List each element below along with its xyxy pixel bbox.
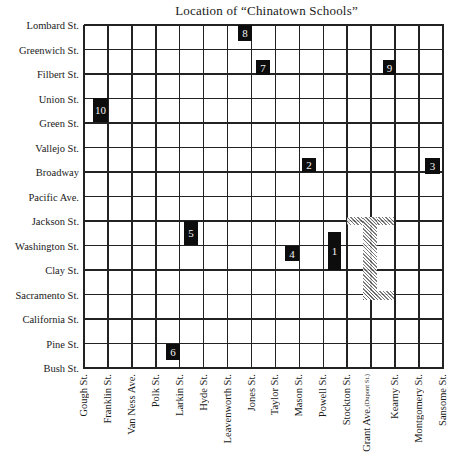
- street-name: Mason St.: [293, 374, 304, 417]
- street-line-horizontal: [84, 122, 444, 124]
- street-line-vertical: [346, 25, 348, 369]
- street-line-horizontal: [84, 318, 444, 320]
- street-name: Kearny St.: [389, 374, 400, 419]
- street-line-vertical: [227, 25, 229, 369]
- school-marker-5: 5: [184, 221, 198, 245]
- street-line-vertical: [370, 25, 372, 369]
- street-label-vertical: Kearny St.: [389, 374, 401, 419]
- street-label-horizontal: Washington St.: [15, 240, 79, 251]
- street-name: Stockton St.: [341, 374, 352, 425]
- school-marker-1: 1: [328, 232, 341, 270]
- street-line-horizontal: [84, 147, 444, 149]
- street-line-vertical: [203, 25, 205, 369]
- school-marker-3: 3: [425, 158, 440, 174]
- street-name: Montgomery St.: [413, 374, 424, 443]
- street-name: Jones St.: [246, 374, 257, 411]
- street-line-horizontal: [84, 269, 444, 271]
- street-label-horizontal: Lombard St.: [27, 20, 80, 31]
- street-label-vertical: Van Ness Ave.: [126, 374, 138, 435]
- chinatown-area-hatch: [363, 291, 394, 300]
- street-line-horizontal: [84, 98, 444, 100]
- street-name: Larkin St.: [174, 374, 185, 416]
- street-line-horizontal: [84, 171, 444, 173]
- school-marker-6: 6: [166, 344, 180, 360]
- school-marker-7: 7: [256, 60, 270, 75]
- street-line-horizontal: [84, 245, 444, 247]
- street-line-vertical: [275, 25, 277, 369]
- street-alt-name: (Dupont St.): [363, 374, 370, 407]
- street-label-vertical: Powell St.: [317, 374, 329, 417]
- street-line-horizontal: [84, 343, 444, 345]
- street-label-horizontal: Greenwich St.: [19, 44, 79, 55]
- school-marker-9: 9: [383, 60, 396, 75]
- street-label-vertical: Polk St.: [150, 374, 162, 407]
- street-name: Gough St.: [78, 374, 89, 417]
- street-name: Polk St.: [150, 374, 161, 407]
- street-label-horizontal: Broadway: [36, 167, 79, 178]
- street-label-horizontal: Bush St.: [43, 363, 79, 374]
- street-line-vertical: [418, 25, 420, 369]
- street-label-vertical: Larkin St.: [174, 374, 186, 416]
- street-label-horizontal: California St.: [22, 314, 79, 325]
- street-label-horizontal: Vallejo St.: [35, 142, 79, 153]
- street-name: Sansome St.: [437, 374, 448, 426]
- street-line-horizontal: [84, 196, 444, 198]
- street-name: Grant Ave.: [361, 407, 372, 452]
- street-label-vertical: Taylor St.: [269, 374, 281, 415]
- street-label-horizontal: Green St.: [39, 118, 79, 129]
- street-name: Franklin St.: [102, 374, 113, 424]
- street-line-vertical: [155, 25, 157, 369]
- street-label-vertical: Jones St.: [246, 374, 258, 411]
- street-grid-map: Lombard St.Greenwich St.Filbert St.Union…: [0, 0, 449, 468]
- street-label-vertical: Stockton St.: [341, 374, 353, 425]
- street-name: Powell St.: [317, 374, 328, 417]
- street-label-horizontal: Sacramento St.: [15, 289, 79, 300]
- street-line-vertical: [299, 25, 301, 369]
- street-label-vertical: Franklin St.: [102, 374, 114, 424]
- street-line-vertical: [394, 25, 396, 369]
- street-line-vertical: [179, 25, 181, 369]
- street-name: Taylor St.: [269, 374, 280, 415]
- street-line-vertical: [442, 25, 444, 369]
- street-line-vertical: [323, 25, 325, 369]
- street-label-vertical: Montgomery St.: [413, 374, 425, 443]
- street-line-horizontal: [84, 367, 444, 369]
- street-name: Van Ness Ave.: [126, 374, 137, 435]
- street-name: Hyde St.: [198, 374, 209, 411]
- street-name: Leavenworth St.: [222, 374, 233, 443]
- street-label-horizontal: Jackson St.: [32, 216, 79, 227]
- street-line-vertical: [107, 25, 109, 369]
- street-label-vertical: Leavenworth St.: [222, 374, 234, 443]
- chinatown-area-hatch: [363, 217, 377, 300]
- street-label-vertical: Gough St.: [78, 374, 90, 417]
- street-label-vertical: Mason St.: [293, 374, 305, 417]
- street-label-vertical: Hyde St.: [198, 374, 210, 411]
- street-label-horizontal: Clay St.: [45, 265, 79, 276]
- street-label-horizontal: Pacific Ave.: [28, 191, 79, 202]
- school-marker-8: 8: [238, 25, 252, 41]
- street-label-vertical: Grant Ave.(Dupont St.): [361, 374, 373, 452]
- street-line-vertical: [83, 25, 85, 369]
- street-label-horizontal: Union St.: [39, 93, 79, 104]
- school-marker-10: 10: [93, 98, 108, 122]
- street-line-vertical: [131, 25, 133, 369]
- street-label-vertical: Sansome St.: [437, 374, 449, 426]
- street-line-vertical: [251, 25, 253, 369]
- street-line-horizontal: [84, 49, 444, 51]
- school-marker-2: 2: [302, 158, 316, 172]
- street-line-horizontal: [84, 24, 444, 26]
- street-label-horizontal: Filbert St.: [37, 69, 79, 80]
- street-label-horizontal: Pine St.: [46, 338, 79, 349]
- school-marker-4: 4: [285, 246, 299, 261]
